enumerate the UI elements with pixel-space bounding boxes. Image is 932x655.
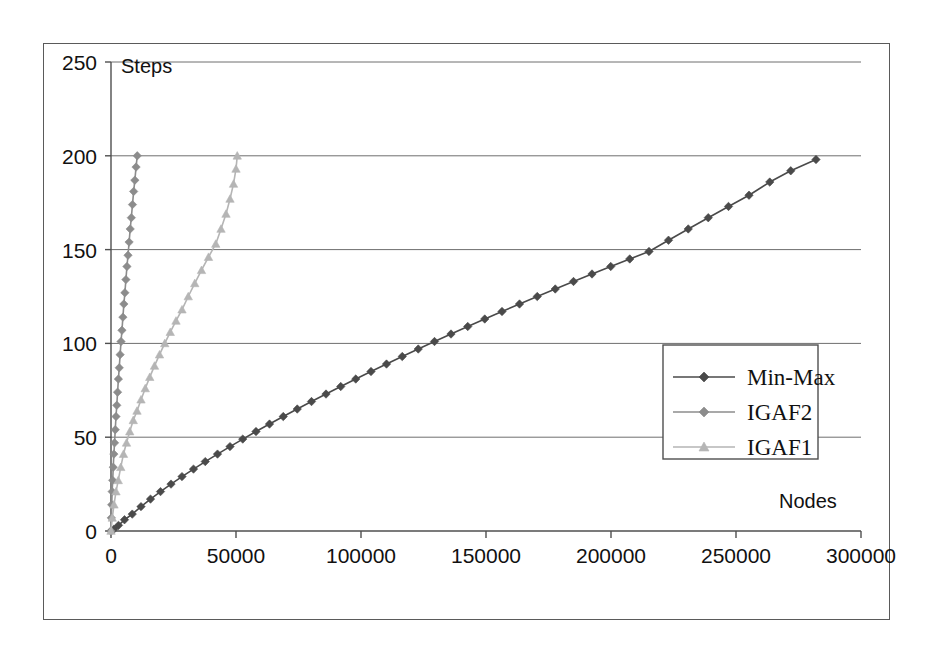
series-marker	[212, 240, 220, 248]
series-marker	[569, 277, 577, 285]
chart-figure: 050100150200250 050000100000150000200000…	[0, 0, 932, 655]
y-tick-label: 50	[74, 426, 97, 449]
y-tick-label: 250	[62, 51, 97, 74]
series-marker	[118, 326, 126, 334]
series-marker	[252, 427, 260, 435]
series-marker	[126, 427, 134, 435]
series-marker	[141, 384, 149, 392]
series-marker	[204, 253, 212, 261]
series-marker	[122, 439, 130, 447]
series-marker	[172, 317, 180, 325]
series-marker	[447, 330, 455, 338]
series-marker	[398, 352, 406, 360]
series-marker	[607, 262, 615, 270]
series-marker	[232, 165, 240, 173]
series-marker	[213, 450, 221, 458]
series-marker	[498, 307, 506, 315]
series-marker	[787, 167, 795, 175]
series-marker	[119, 313, 127, 321]
series-marker	[126, 225, 134, 233]
legend-label: Min-Max	[747, 365, 836, 390]
series-marker	[745, 191, 753, 199]
series-marker	[115, 364, 123, 372]
series-marker	[367, 367, 375, 375]
series-marker	[382, 360, 390, 368]
y-tick-label: 100	[62, 332, 97, 355]
series-marker	[166, 328, 174, 336]
series-marker	[122, 275, 130, 283]
legend-label: IGAF1	[747, 435, 812, 460]
series-marker	[133, 407, 141, 415]
series-marker	[481, 315, 489, 323]
series-marker	[533, 292, 541, 300]
series-marker	[724, 202, 732, 210]
x-tick-label: 300000	[826, 544, 896, 567]
series-marker	[150, 362, 158, 370]
series-marker	[129, 416, 137, 424]
series-marker	[201, 457, 209, 465]
series-marker	[113, 388, 121, 396]
series-marker	[217, 225, 225, 233]
x-tick-label: 250000	[701, 544, 771, 567]
chart-canvas: 050100150200250 050000100000150000200000…	[0, 0, 932, 655]
x-tick-label: 150000	[451, 544, 521, 567]
series-marker	[645, 247, 653, 255]
y-axis-tick-labels: 050100150200250	[62, 51, 97, 543]
series-marker	[184, 292, 192, 300]
series-marker	[146, 373, 154, 381]
series-marker	[222, 210, 230, 218]
series-marker	[515, 300, 523, 308]
series-marker	[137, 395, 145, 403]
series-marker	[111, 425, 119, 433]
x-axis-title: Nodes	[779, 490, 837, 512]
series-marker	[120, 300, 128, 308]
series-marker	[132, 163, 140, 171]
series-marker	[293, 405, 301, 413]
series-marker	[414, 345, 422, 353]
series-marker	[588, 270, 596, 278]
series-marker	[307, 397, 315, 405]
series-marker	[626, 255, 634, 263]
series-marker	[117, 463, 125, 471]
y-tick-label: 200	[62, 145, 97, 168]
series-marker	[766, 178, 774, 186]
x-axis-ticks	[111, 531, 861, 538]
series-marker	[113, 401, 121, 409]
series-marker	[464, 322, 472, 330]
series-marker	[121, 289, 129, 297]
series-marker	[127, 214, 135, 222]
series-marker	[129, 187, 137, 195]
series-marker	[239, 435, 247, 443]
series-marker	[812, 155, 820, 163]
series-marker	[125, 238, 133, 246]
series-marker	[119, 450, 127, 458]
series-marker	[124, 251, 132, 259]
series-marker	[704, 214, 712, 222]
series-marker	[191, 279, 199, 287]
y-axis-ticks	[105, 62, 111, 531]
series-marker	[114, 375, 122, 383]
series-marker	[337, 382, 345, 390]
x-tick-label: 100000	[326, 544, 396, 567]
series-marker	[112, 412, 120, 420]
series-marker	[430, 337, 438, 345]
legend-label: IGAF2	[747, 400, 812, 425]
series-marker	[133, 152, 141, 160]
series-marker	[684, 225, 692, 233]
x-tick-label: 200000	[576, 544, 646, 567]
series-marker	[116, 350, 124, 358]
series-marker	[131, 176, 139, 184]
series-marker	[226, 442, 234, 450]
series-marker	[664, 236, 672, 244]
series-marker	[551, 285, 559, 293]
series-marker	[279, 412, 287, 420]
x-tick-label: 0	[105, 544, 117, 567]
y-tick-label: 150	[62, 239, 97, 262]
series-marker	[189, 465, 197, 473]
series-marker	[123, 262, 131, 270]
series-marker	[322, 390, 330, 398]
y-axis-title: Steps	[121, 55, 172, 77]
series-marker	[229, 180, 237, 188]
y-tick-label: 0	[85, 520, 97, 543]
series-marker	[117, 337, 125, 345]
